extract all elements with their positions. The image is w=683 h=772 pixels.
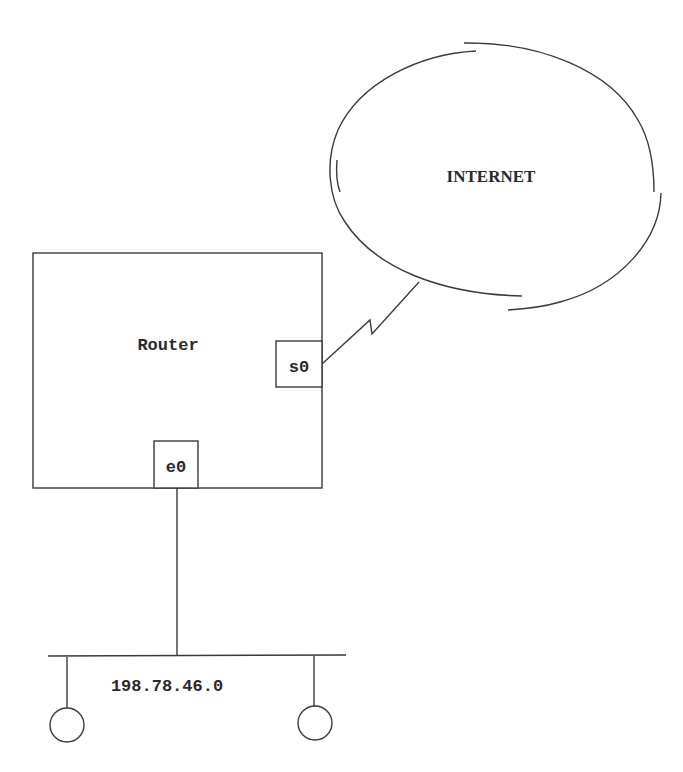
internet-cloud-arc-inner: [337, 160, 340, 192]
internet-cloud: INTERNET: [330, 43, 661, 310]
port-e0: e0: [154, 441, 198, 488]
network-address-label: 198.78.46.0: [111, 677, 223, 696]
host-2-icon: [298, 706, 332, 740]
internet-cloud-arc-right-lower: [508, 193, 661, 310]
host-1-icon: [50, 708, 84, 742]
router: Router s0 e0: [33, 253, 322, 488]
host-2: [298, 656, 332, 740]
network-diagram: INTERNET Router s0 e0 198.78.46.0: [0, 0, 683, 772]
serial-link: [322, 282, 419, 364]
router-label: Router: [137, 336, 198, 355]
internet-label: INTERNET: [447, 167, 536, 186]
host-1: [50, 657, 84, 742]
lan-segment: 198.78.46.0: [48, 655, 346, 742]
port-e0-label: e0: [166, 458, 186, 477]
port-s0: s0: [276, 341, 322, 387]
lan-bus: [48, 655, 346, 656]
port-s0-label: s0: [289, 358, 309, 377]
